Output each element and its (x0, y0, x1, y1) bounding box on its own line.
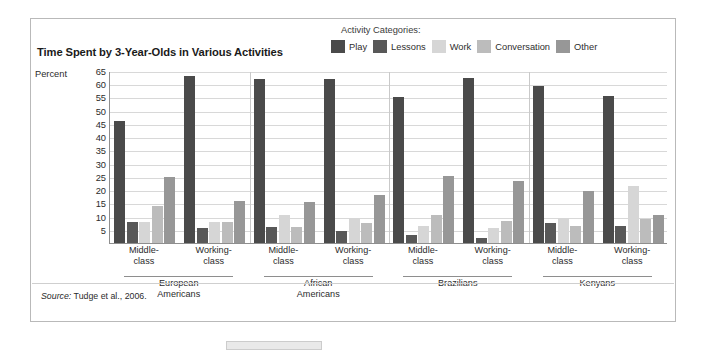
group-rule (403, 276, 512, 277)
subgroup-label: Middle-class (268, 245, 298, 266)
legend-title: Activity Categories: (341, 25, 671, 35)
y-tick-label: 65 (96, 67, 106, 77)
subgroup-label: Working-class (335, 245, 371, 266)
y-tick-label: 25 (96, 173, 106, 183)
plot-area: 5101520253035404550556065 (109, 72, 667, 244)
page-artifact-strip (226, 341, 322, 350)
y-tick-label: 15 (96, 199, 106, 209)
legend-swatch-icon (556, 40, 570, 53)
legend-item-lessons: Lessons (373, 40, 426, 53)
bar-other-3 (374, 195, 385, 243)
y-tick-label: 30 (96, 160, 106, 170)
bar-conversation-4 (431, 215, 442, 243)
group-label: AfricanAmericans (297, 278, 340, 299)
subgroup-label-line: Middle- (268, 245, 298, 256)
y-tick-label: 60 (96, 80, 106, 90)
group-label: EuropeanAmericans (157, 278, 200, 299)
subgroup-label-line: Working- (475, 245, 511, 256)
subgroup-label: Middle-class (547, 245, 577, 266)
legend-item-label: Play (349, 42, 367, 52)
legend-item-label: Lessons (391, 42, 426, 52)
y-tick-label: 40 (96, 133, 106, 143)
subgroup-label: Middle-class (408, 245, 438, 266)
bar-other-0 (164, 177, 175, 243)
source-prefix: Source: (41, 291, 71, 301)
legend-item-label: Other (574, 42, 597, 52)
subgroup-label-line: Working- (196, 245, 232, 256)
subgroup-label: Working-class (475, 245, 511, 266)
chart-legend: Activity Categories: PlayLessonsWorkConv… (331, 25, 671, 53)
bar-conversation-6 (570, 226, 581, 243)
subgroup-label-line: class (335, 256, 371, 267)
subgroup-label-line: class (475, 256, 511, 267)
subgroup-label-line: class (268, 256, 298, 267)
bar-work-3 (349, 218, 360, 243)
subgroup-label-line: class (408, 256, 438, 267)
figure-frame: Time Spent by 3-Year-Olds in Various Act… (30, 18, 676, 322)
bar-conversation-5 (501, 221, 512, 243)
bar-play-6 (533, 86, 544, 243)
legend-items: PlayLessonsWorkConversationOther (331, 40, 671, 53)
bar-work-7 (628, 186, 639, 243)
source-note: Source: Tudge et al., 2006. (41, 291, 147, 301)
legend-swatch-icon (373, 40, 387, 53)
bar-lessons-0 (127, 222, 138, 243)
bar-play-1 (184, 76, 195, 243)
subgroup-label-line: Middle- (408, 245, 438, 256)
bar-work-5 (488, 228, 499, 243)
bar-work-6 (558, 218, 569, 243)
subgroup-label: Working-class (196, 245, 232, 266)
bar-conversation-7 (640, 219, 651, 243)
legend-item-label: Conversation (495, 42, 550, 52)
bar-play-4 (393, 97, 404, 243)
bar-lessons-2 (266, 227, 277, 243)
bar-lessons-4 (406, 235, 417, 243)
legend-swatch-icon (331, 40, 345, 53)
bar-other-7 (653, 215, 664, 243)
bar-play-5 (463, 78, 474, 243)
y-tick-label: 55 (96, 93, 106, 103)
bar-lessons-6 (545, 223, 556, 243)
bar-play-2 (254, 79, 265, 243)
legend-item-play: Play (331, 40, 367, 53)
bar-other-6 (583, 191, 594, 243)
subgroup-label-line: Working- (335, 245, 371, 256)
y-tick-label: 35 (96, 146, 106, 156)
subgroup-label-line: class (614, 256, 650, 267)
legend-swatch-icon (432, 40, 446, 53)
page-title: Time Spent by 3-Year-Olds in Various Act… (37, 46, 283, 58)
legend-item-work: Work (432, 40, 472, 53)
bar-conversation-1 (222, 222, 233, 243)
bar-lessons-7 (615, 226, 626, 243)
y-tick-label: 10 (96, 213, 106, 223)
group-rule (543, 276, 652, 277)
subgroup-label-line: Middle- (129, 245, 159, 256)
source-divider (32, 283, 674, 284)
subgroup-label-line: class (129, 256, 159, 267)
legend-item-conversation: Conversation (477, 40, 550, 53)
bar-work-1 (209, 222, 220, 243)
y-tick-label: 50 (96, 107, 106, 117)
bar-lessons-3 (336, 231, 347, 243)
legend-swatch-icon (477, 40, 491, 53)
subgroup-label-line: Working- (614, 245, 650, 256)
y-tick-label: 45 (96, 120, 106, 130)
bar-play-3 (324, 79, 335, 243)
bar-work-2 (279, 215, 290, 243)
subgroup-label: Middle-class (129, 245, 159, 266)
bar-conversation-0 (152, 206, 163, 243)
bar-lessons-5 (476, 238, 487, 243)
bar-other-5 (513, 181, 524, 243)
bar-lessons-1 (197, 228, 208, 243)
bar-other-2 (304, 202, 315, 243)
subgroup-label: Working-class (614, 245, 650, 266)
group-separator (250, 72, 251, 243)
bar-play-0 (114, 121, 125, 243)
bar-work-0 (139, 222, 150, 243)
subgroup-label-line: class (547, 256, 577, 267)
legend-item-label: Work (450, 42, 472, 52)
bar-other-4 (443, 176, 454, 243)
group-label-line: Americans (157, 289, 200, 300)
legend-item-other: Other (556, 40, 597, 53)
bar-conversation-2 (291, 227, 302, 243)
